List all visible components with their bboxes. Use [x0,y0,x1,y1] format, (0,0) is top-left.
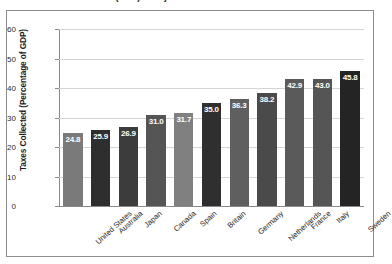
bar-value-label: 24.8 [63,135,82,144]
bar[interactable]: 25.9 [91,130,110,206]
bar-chart: Taxes Collected (Percentage of GDP) 0102… [7,11,373,256]
chart-frame: Taxes Collected (Percentage of GDP) 0102… [6,10,374,257]
plot-area: 24.825.926.931.031.735.036.338.242.943.0… [59,29,364,206]
bar-value-label: 42.9 [285,81,304,90]
bar[interactable]: 42.9 [285,79,304,206]
x-axis-label: Britain [226,209,248,230]
bar-value-label: 26.9 [119,129,138,138]
bar[interactable]: 38.2 [257,93,276,206]
x-axis-label: Italy [335,209,351,225]
x-axis-label: Sweden [366,209,392,234]
y-tick-label-20: 20 [0,143,16,152]
y-tick-label-40: 40 [0,84,16,93]
bar-value-label: 35.0 [202,105,221,114]
gridline-50 [59,59,364,60]
y-tick-label-10: 10 [0,172,16,181]
bar[interactable]: 24.8 [63,133,82,206]
x-axis-label: Germany [256,209,285,237]
x-axis-label: Japan [142,209,163,230]
y-tick-label-60: 60 [0,25,16,34]
bar[interactable]: 35.0 [202,103,221,206]
bar-value-label: 31.0 [146,117,165,126]
chart-title: (GDP) in Major Industrialized Nations [0,0,382,2]
bar-value-label: 43.0 [313,81,332,90]
bar-value-label: 45.8 [340,73,359,82]
y-tick-label-50: 50 [0,54,16,63]
bar[interactable]: 43.0 [313,79,332,206]
bar[interactable]: 45.8 [340,71,359,206]
bar-value-label: 36.3 [230,101,249,110]
bar[interactable]: 31.7 [174,113,193,207]
x-axis-label: Spain [197,209,217,229]
bar-value-label: 25.9 [91,132,110,141]
bar-value-label: 38.2 [257,95,276,104]
gridline-60 [59,29,364,30]
x-axis-label: Canada [172,209,198,233]
bar[interactable]: 26.9 [119,127,138,206]
gridline-0 [59,206,364,207]
bar[interactable]: 31.0 [146,115,165,206]
y-tick-label-30: 30 [0,113,16,122]
y-tick-label-0: 0 [0,202,16,211]
y-axis-title: Taxes Collected (Percentage of GDP) [18,20,28,180]
bar-value-label: 31.7 [174,115,193,124]
chart-title-strip: (GDP) in Major Industrialized Nations [0,0,382,9]
bar[interactable]: 36.3 [230,99,249,206]
